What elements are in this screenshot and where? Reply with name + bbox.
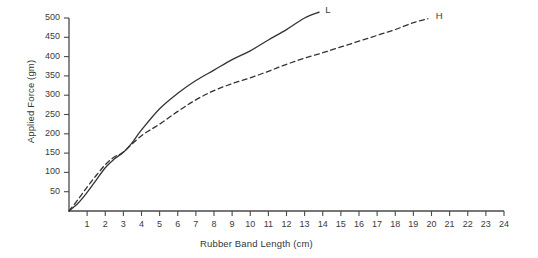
y-tick-label: 300 <box>34 89 60 99</box>
y-tick-label: 100 <box>34 166 60 176</box>
x-tick-label: 16 <box>350 219 368 229</box>
x-tick-label: 1 <box>78 219 96 229</box>
series-line-l <box>69 12 319 211</box>
x-tick-label: 22 <box>459 219 477 229</box>
x-tick-label: 20 <box>423 219 441 229</box>
x-tick-label: 4 <box>133 219 151 229</box>
x-tick-label: 5 <box>151 219 169 229</box>
x-tick-label: 13 <box>296 219 314 229</box>
x-axis-ticks <box>87 211 504 216</box>
x-tick-label: 18 <box>386 219 404 229</box>
x-tick-label: 19 <box>404 219 422 229</box>
x-tick-label: 8 <box>205 219 223 229</box>
x-tick-label: 21 <box>441 219 459 229</box>
y-tick-label: 50 <box>34 186 60 196</box>
axis-lines <box>69 18 504 211</box>
rubber-band-force-chart: Applied Force (gm) Rubber Band Length (c… <box>0 0 538 258</box>
series-end-label-h: H <box>436 10 443 21</box>
x-tick-label: 23 <box>477 219 495 229</box>
x-tick-label: 7 <box>187 219 205 229</box>
x-tick-label: 14 <box>314 219 332 229</box>
x-tick-label: 12 <box>278 219 296 229</box>
x-tick-label: 6 <box>169 219 187 229</box>
x-tick-label: 11 <box>259 219 277 229</box>
y-tick-label: 500 <box>34 12 60 22</box>
y-tick-label: 150 <box>34 147 60 157</box>
y-tick-label: 450 <box>34 31 60 41</box>
x-tick-label: 15 <box>332 219 350 229</box>
x-tick-label: 3 <box>114 219 132 229</box>
x-tick-label: 24 <box>495 219 513 229</box>
y-tick-label: 200 <box>34 128 60 138</box>
y-tick-label: 350 <box>34 70 60 80</box>
y-axis-ticks <box>64 18 69 192</box>
x-tick-label: 17 <box>368 219 386 229</box>
x-axis-title: Rubber Band Length (cm) <box>200 238 313 249</box>
x-tick-label: 9 <box>223 219 241 229</box>
series-end-label-l: L <box>325 4 330 15</box>
series-line-h <box>69 19 428 211</box>
y-tick-label: 400 <box>34 51 60 61</box>
y-tick-label: 250 <box>34 109 60 119</box>
x-tick-label: 2 <box>96 219 114 229</box>
data-series-group <box>69 12 428 211</box>
x-tick-label: 10 <box>241 219 259 229</box>
